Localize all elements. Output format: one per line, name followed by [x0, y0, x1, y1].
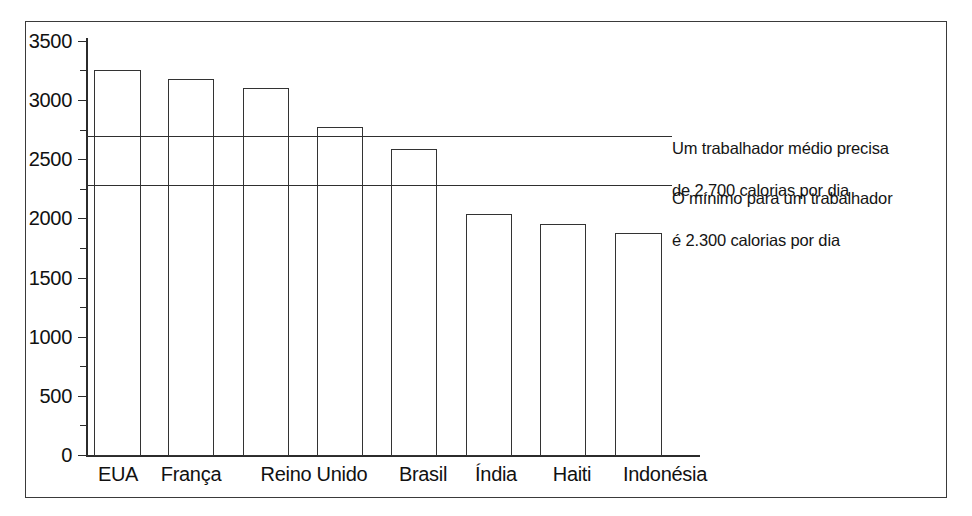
figure-frame: [25, 21, 947, 498]
chart-figure: 3500 3000 2500 2000 1500 1000 500 0: [0, 0, 972, 516]
